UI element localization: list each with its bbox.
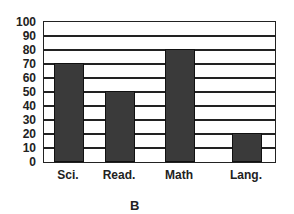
y-tick-80: 80 [23, 44, 36, 56]
y-tick-30: 30 [23, 114, 36, 126]
y-tick-20: 20 [23, 128, 36, 140]
x-label-lang: Lang. [221, 168, 271, 182]
bar-sci [54, 63, 84, 162]
y-tick-70: 70 [23, 58, 36, 70]
plot-area [43, 21, 276, 163]
bar-math [165, 49, 195, 162]
y-tick-0: 0 [29, 156, 36, 168]
x-label-read: Read. [94, 168, 144, 182]
x-label-math: Math [154, 168, 204, 182]
bar-read [105, 91, 135, 162]
bar-lang [232, 133, 262, 162]
gridline [44, 49, 275, 51]
y-tick-90: 90 [23, 30, 36, 42]
y-tick-40: 40 [23, 100, 36, 112]
y-tick-60: 60 [23, 72, 36, 84]
x-label-sci: Sci. [43, 168, 93, 182]
y-tick-100: 100 [16, 16, 36, 28]
figure-caption: B [130, 198, 139, 213]
gridline [44, 35, 275, 37]
y-tick-50: 50 [23, 86, 36, 98]
y-tick-10: 10 [23, 142, 36, 154]
